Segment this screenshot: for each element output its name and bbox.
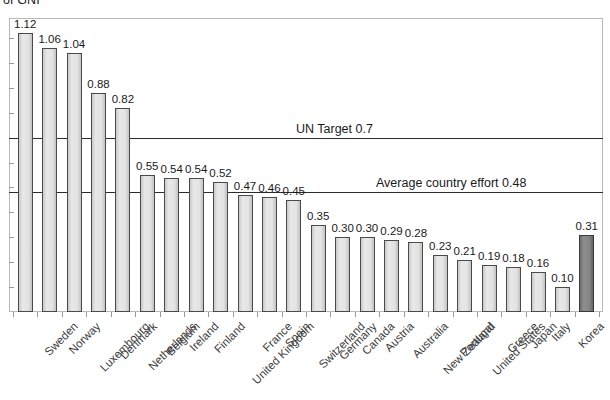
bar-spain[interactable] xyxy=(262,197,277,312)
bar-france[interactable] xyxy=(238,195,253,312)
x-axis-tick xyxy=(184,312,185,317)
x-axis-tick xyxy=(111,312,112,317)
bar-value-label: 0.31 xyxy=(572,220,602,232)
x-axis-tick xyxy=(233,312,234,317)
category-label: Portugal xyxy=(458,320,497,359)
bar-value-label: 0.88 xyxy=(84,78,114,90)
y-axis-tick xyxy=(9,63,14,64)
bar-value-label: 1.04 xyxy=(59,38,89,50)
bar-total-dac[interactable] xyxy=(579,235,594,312)
bar-austria[interactable] xyxy=(360,237,375,312)
y-axis-tick xyxy=(9,163,14,164)
reference-line-label: UN Target 0.7 xyxy=(296,122,373,136)
bar-norway[interactable] xyxy=(42,48,57,312)
x-axis-tick xyxy=(501,312,502,317)
bar-value-label: 0.82 xyxy=(108,93,138,105)
y-axis-tick xyxy=(9,287,14,288)
reference-line-label: Average country effort 0.48 xyxy=(376,176,526,190)
x-axis-tick xyxy=(135,312,136,317)
bar-belgium[interactable] xyxy=(140,175,155,312)
x-axis-tick xyxy=(86,312,87,317)
x-axis-tick xyxy=(599,312,600,317)
x-axis-tick xyxy=(257,312,258,317)
bar-value-label: 0.45 xyxy=(279,185,309,197)
category-label: Australia xyxy=(410,320,450,360)
x-axis-tick xyxy=(575,312,576,317)
bar-switzerland[interactable] xyxy=(286,200,301,312)
x-axis-tick xyxy=(428,312,429,317)
y-axis-tick xyxy=(9,88,14,89)
y-axis-tick xyxy=(9,38,14,39)
bar-value-label: 0.10 xyxy=(547,272,577,284)
bar-value-label: 0.16 xyxy=(523,257,553,269)
bar-united-kingdom[interactable] xyxy=(213,182,228,312)
bar-value-label: 0.52 xyxy=(206,167,236,179)
bar-sweden[interactable] xyxy=(18,33,33,312)
bar-ireland[interactable] xyxy=(164,178,179,313)
y-axis-tick xyxy=(9,187,14,188)
x-axis-tick xyxy=(355,312,356,317)
y-axis-tick xyxy=(9,262,14,263)
bar-united-states[interactable] xyxy=(457,260,472,312)
x-axis-tick xyxy=(282,312,283,317)
x-axis-tick xyxy=(37,312,38,317)
bar-italy[interactable] xyxy=(531,272,546,312)
bar-netherlands[interactable] xyxy=(115,108,130,312)
x-axis-tick xyxy=(330,312,331,317)
bar-value-label: 1.12 xyxy=(10,18,40,30)
x-axis-tick xyxy=(62,312,63,317)
bar-value-label: 0.35 xyxy=(303,210,333,222)
y-axis-tick xyxy=(9,113,14,114)
bar-new-zealand[interactable] xyxy=(408,242,423,312)
bar-portugal[interactable] xyxy=(433,255,448,312)
x-axis-tick xyxy=(404,312,405,317)
bar-australia[interactable] xyxy=(384,240,399,312)
x-axis-tick xyxy=(453,312,454,317)
x-axis-tick xyxy=(208,312,209,317)
x-axis-tick xyxy=(306,312,307,317)
category-label: Korea xyxy=(576,320,606,350)
bar-finland[interactable] xyxy=(189,178,204,313)
chart-subtitle: of GNI xyxy=(3,0,40,7)
y-axis-tick xyxy=(9,237,14,238)
bar-greece[interactable] xyxy=(482,265,497,312)
bar-denmark[interactable] xyxy=(91,93,106,312)
bar-value-label: 0.28 xyxy=(401,227,431,239)
x-axis-tick xyxy=(550,312,551,317)
bar-canada[interactable] xyxy=(335,237,350,312)
bar-luxembourg[interactable] xyxy=(67,53,82,312)
bar-japan[interactable] xyxy=(506,267,521,312)
y-axis-tick xyxy=(9,212,14,213)
x-axis-tick xyxy=(160,312,161,317)
x-axis-tick xyxy=(526,312,527,317)
bar-korea[interactable] xyxy=(555,287,570,312)
x-axis-tick xyxy=(379,312,380,317)
x-axis-tick xyxy=(13,312,14,317)
bar-germany[interactable] xyxy=(311,225,326,312)
x-axis-tick xyxy=(477,312,478,317)
